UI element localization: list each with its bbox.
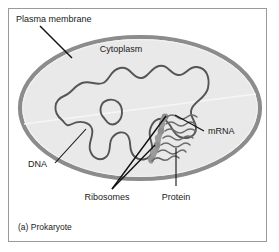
label-mrna: mRNA	[208, 126, 235, 136]
label-cytoplasm: Cytoplasm	[100, 44, 143, 54]
figure-root: Plasma membrane Cytoplasm DNA mRNA Ribos…	[0, 0, 279, 252]
label-dna: DNA	[28, 159, 47, 169]
ribosome-dot	[158, 128, 165, 135]
label-ribosomes: Ribosomes	[84, 192, 130, 202]
ribosome-dot	[155, 135, 161, 141]
prokaryote-cell-diagram: Plasma membrane Cytoplasm DNA mRNA Ribos…	[0, 0, 279, 252]
plasma-membrane-leader	[40, 26, 72, 58]
label-plasma-membrane: Plasma membrane	[16, 14, 92, 24]
label-protein: Protein	[162, 192, 191, 202]
figure-caption: (a) Prokaryote	[18, 222, 72, 232]
